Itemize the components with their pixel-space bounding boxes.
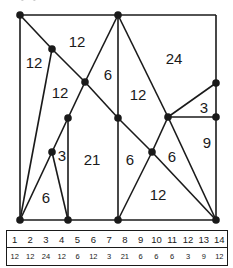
region-label: 12 [150,186,167,203]
region-label: 6 [126,151,134,168]
vertex-E [64,114,72,122]
vertex-I [114,216,122,224]
vertex-B [114,11,122,19]
region-label: 12 [130,86,147,103]
vertex-M [148,148,156,156]
region-label: 12 [52,84,69,101]
partition-square: 121224612123932166612 [0,0,233,228]
value-cell: 12 [7,248,23,266]
vertex-L [212,113,220,121]
value-cell: 12 [22,248,38,266]
value-cell: 6 [149,248,165,266]
region-label: 6 [42,189,50,206]
value-cell: 21 [117,248,133,266]
region-label: 21 [84,151,101,168]
segment-C-D [52,49,85,82]
index-cell: 8 [117,231,133,248]
vertex-A [16,11,24,19]
segment-F-BL [20,152,52,220]
region-label: 9 [203,134,211,151]
segment-B-D [85,15,118,82]
index-cell: 9 [133,231,149,248]
value-cell: 6 [164,248,180,266]
index-cell: 3 [38,231,54,248]
segment-H-M [118,118,152,152]
vertex-BL [16,216,24,224]
index-cell: 6 [85,231,101,248]
index-cell: 10 [149,231,165,248]
value-cell: 3 [101,248,117,266]
vertex-F [48,148,56,156]
index-cell: 7 [101,231,117,248]
value-cell: 9 [196,248,212,266]
vertex-G [64,216,72,224]
vertex-H [114,114,122,122]
value-cell: 24 [38,248,54,266]
value-cell: 3 [180,248,196,266]
index-cell: 5 [70,231,86,248]
region-label: 24 [166,50,183,67]
geometry-diagram: 121224612123932166612 [0,0,233,228]
index-cell: 4 [54,231,70,248]
index-cell: 11 [164,231,180,248]
region-label: 3 [200,99,208,116]
region-label: 12 [26,54,43,71]
vertex-C [48,45,56,53]
segment-J-K [168,83,216,117]
cropped-heading-glyph [14,0,38,2]
index-cell: 12 [180,231,196,248]
index-cell: 13 [196,231,212,248]
value-row: 121224126123216663912 [7,248,228,266]
region-label: 12 [69,33,86,50]
index-cell: 2 [22,231,38,248]
answer-table: 1234567891011121314 12122412612321666391… [6,230,228,266]
region-label: 6 [168,148,176,165]
segment-M-I [118,152,152,220]
value-cell: 12 [85,248,101,266]
vertex-K [212,79,220,87]
index-cell: 14 [212,231,228,248]
segment-D-H [85,82,118,118]
segment-D-E [68,82,85,118]
segment-J-M [152,117,168,152]
segment-A-C [20,15,52,49]
vertex-N [212,216,220,224]
vertex-D [81,78,89,86]
vertex-J [164,113,172,121]
region-label: 6 [104,66,112,83]
index-row: 1234567891011121314 [7,231,228,248]
segment-J-N [168,117,216,220]
region-label: 3 [58,147,66,164]
index-cell: 1 [7,231,23,248]
value-cell: 6 [133,248,149,266]
value-cell: 6 [70,248,86,266]
value-cell: 12 [54,248,70,266]
value-cell: 12 [212,248,228,266]
